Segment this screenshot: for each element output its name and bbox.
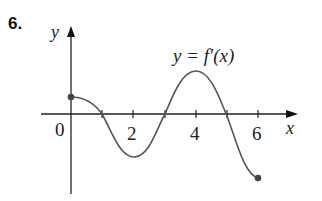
x-axis-label: x (285, 118, 294, 138)
tick-label-4: 4 (190, 123, 200, 144)
y-axis-label: y (49, 22, 59, 42)
end-point-dot (255, 175, 262, 182)
tick-label-2: 2 (127, 123, 137, 144)
origin-label: 0 (55, 119, 65, 140)
y-axis-arrow-icon (67, 26, 75, 37)
start-point-dot (68, 94, 75, 101)
derivative-graph: y x 0 2 4 6 y = f′(x) (0, 0, 322, 201)
tick-label-6: 6 (252, 123, 262, 144)
derivative-curve (71, 71, 258, 178)
x-axis-arrow-icon (286, 110, 298, 118)
curve-label: y = f′(x) (171, 45, 234, 67)
